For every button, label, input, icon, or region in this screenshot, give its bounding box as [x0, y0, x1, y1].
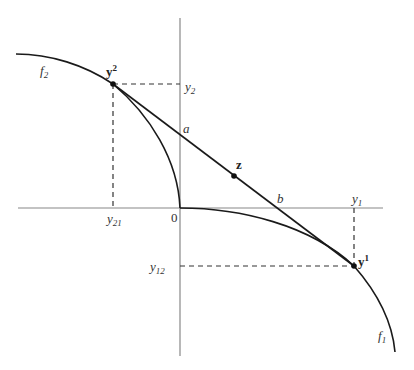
label-f2: f2: [40, 63, 49, 80]
pareto-diagram: f2 f1 y2 y1 z a b 0 y2 y21 y1 y12: [0, 0, 414, 370]
tick-y12: y12: [148, 259, 165, 276]
inner-arc-lower: [180, 208, 354, 266]
label-y2-point: y2: [106, 63, 118, 79]
tick-y2: y2: [183, 79, 196, 96]
label-f1: f1: [378, 328, 386, 345]
point-z: [231, 173, 237, 179]
label-z: z: [236, 157, 242, 172]
tick-y21: y21: [105, 211, 122, 228]
point-y2: [110, 81, 116, 87]
label-a: a: [183, 121, 190, 136]
label-y1-point: y1: [358, 253, 370, 269]
point-y1: [351, 263, 357, 269]
curve-f2: [16, 54, 113, 84]
tick-y1: y1: [350, 191, 362, 208]
curve-f1: [354, 266, 395, 352]
label-origin: 0: [171, 210, 178, 225]
inner-arc-upper: [113, 84, 180, 208]
label-b: b: [277, 191, 284, 206]
